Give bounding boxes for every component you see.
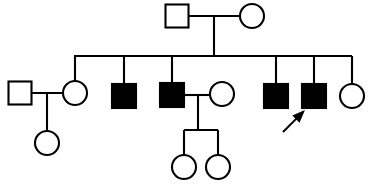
individual-III-2-female-unaffected[interactable] [172, 155, 196, 179]
individual-II-1-male-unaffected[interactable] [9, 82, 32, 105]
individual-II-6-male-affected[interactable] [264, 84, 288, 108]
individual-II-7-male-affected-proband[interactable] [302, 84, 326, 108]
individual-II-4-male-affected[interactable] [160, 83, 184, 107]
individual-III-1-female-unaffected[interactable] [35, 131, 59, 155]
individual-II-8-female-unaffected[interactable] [340, 84, 364, 108]
pedigree-chart: Family Pedigree Chart male female affect… [0, 0, 369, 185]
pedigree-canvas [0, 0, 369, 185]
generation-3-group [35, 131, 230, 179]
individual-I-2-female-unaffected[interactable] [240, 4, 264, 28]
proband-arrow-icon [283, 112, 303, 132]
individual-I-1-male-unaffected[interactable] [166, 5, 189, 28]
individual-II-2-female-unaffected[interactable] [63, 81, 87, 105]
individual-II-5-female-unaffected[interactable] [210, 82, 234, 106]
individual-III-3-female-unaffected[interactable] [206, 155, 230, 179]
individual-II-3-male-affected[interactable] [112, 84, 136, 108]
